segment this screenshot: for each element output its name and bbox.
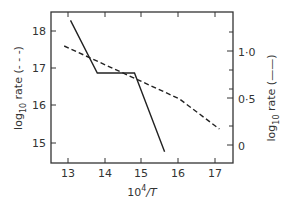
y-left-tick-16: 16: [32, 99, 46, 112]
y-right-tick-0-5: 0·5: [238, 93, 256, 106]
x-axis-title: 104/T: [127, 184, 158, 199]
y-right-tick-labels: 1·0 0·5 0: [238, 46, 256, 153]
y-left-tick-labels: 18 17 16 15: [32, 25, 46, 150]
y-right-tick-1-0: 1·0: [238, 46, 256, 59]
y-axis-right: [227, 32, 233, 145]
x-tick-15: 15: [134, 167, 148, 180]
y-right-tick-0: 0: [238, 140, 245, 153]
y-axis-left-title: log10 rate (- - -): [12, 46, 28, 130]
x-axis: [68, 12, 215, 163]
chart: 13 14 15 16 17 104/T 18 17 16 15 log10 r…: [0, 0, 287, 208]
x-tick-13: 13: [61, 167, 75, 180]
y-axis-left: [51, 31, 56, 143]
y-axis-right-title: log10 rate (——): [265, 55, 281, 142]
x-tick-17: 17: [208, 167, 222, 180]
y-left-tick-17: 17: [32, 62, 46, 75]
x-tick-14: 14: [98, 167, 112, 180]
solid-series-line: [71, 20, 165, 151]
x-tick-16: 16: [171, 167, 185, 180]
y-left-tick-18: 18: [32, 25, 46, 38]
dashed-series-line: [64, 46, 219, 129]
x-tick-labels: 13 14 15 16 17: [61, 167, 222, 180]
y-left-tick-15: 15: [32, 137, 46, 150]
